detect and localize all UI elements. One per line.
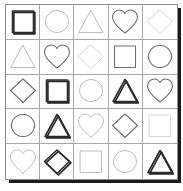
- grid-cell-r5-c2[interactable]: [40, 144, 74, 179]
- grid-cell-r2-c4[interactable]: [109, 40, 143, 75]
- heart-icon: [42, 43, 72, 71]
- grid-cell-r1-c1[interactable]: [6, 5, 40, 40]
- circle-icon: [110, 148, 140, 176]
- grid-cell-r1-c2[interactable]: [40, 5, 74, 40]
- diamond-icon: [8, 77, 38, 105]
- grid-cell-r3-c5[interactable]: [143, 75, 177, 110]
- triangle-icon: [110, 77, 140, 105]
- grid-cell-r1-c4[interactable]: [109, 5, 143, 40]
- heart-icon: [145, 77, 175, 105]
- shape-grid-figure: [0, 0, 183, 191]
- grid-cell-r4-c1[interactable]: [6, 109, 40, 144]
- shape-grid: [5, 4, 178, 180]
- triangle-icon: [145, 148, 175, 176]
- grid-cell-r1-c3[interactable]: [74, 5, 108, 40]
- circle-icon: [76, 77, 106, 105]
- circle-icon: [145, 43, 175, 71]
- grid-cell-r2-c1[interactable]: [6, 40, 40, 75]
- grid-cell-r3-c1[interactable]: [6, 75, 40, 110]
- grid-cell-r5-c4[interactable]: [109, 144, 143, 179]
- grid-cell-r2-c3[interactable]: [74, 40, 108, 75]
- triangle-icon: [42, 112, 72, 140]
- triangle-icon: [76, 8, 106, 36]
- square-icon: [8, 8, 38, 36]
- diamond-icon: [42, 148, 72, 176]
- grid-cell-r4-c5[interactable]: [143, 109, 177, 144]
- heart-icon: [76, 112, 106, 140]
- grid-cell-r2-c5[interactable]: [143, 40, 177, 75]
- grid-drop-shadow-right: [178, 8, 181, 183]
- grid-cell-r5-c1[interactable]: [6, 144, 40, 179]
- grid-cell-r5-c5[interactable]: [143, 144, 177, 179]
- grid-cell-r3-c2[interactable]: [40, 75, 74, 110]
- square-icon: [145, 112, 175, 140]
- grid-cell-r4-c4[interactable]: [109, 109, 143, 144]
- grid-drop-shadow-bottom: [9, 180, 181, 183]
- square-icon: [42, 77, 72, 105]
- grid-cell-r4-c2[interactable]: [40, 109, 74, 144]
- diamond-icon: [76, 43, 106, 71]
- grid-cell-r4-c3[interactable]: [74, 109, 108, 144]
- heart-icon: [8, 148, 38, 176]
- triangle-icon: [8, 43, 38, 71]
- grid-cell-r3-c3[interactable]: [74, 75, 108, 110]
- grid-cell-r3-c4[interactable]: [109, 75, 143, 110]
- circle-icon: [8, 112, 38, 140]
- square-icon: [76, 148, 106, 176]
- heart-icon: [110, 8, 140, 36]
- grid-cell-r1-c5[interactable]: [143, 5, 177, 40]
- diamond-icon: [110, 112, 140, 140]
- grid-cell-r5-c3[interactable]: [74, 144, 108, 179]
- square-icon: [110, 43, 140, 71]
- diamond-icon: [145, 8, 175, 36]
- circle-icon: [42, 8, 72, 36]
- grid-cell-r2-c2[interactable]: [40, 40, 74, 75]
